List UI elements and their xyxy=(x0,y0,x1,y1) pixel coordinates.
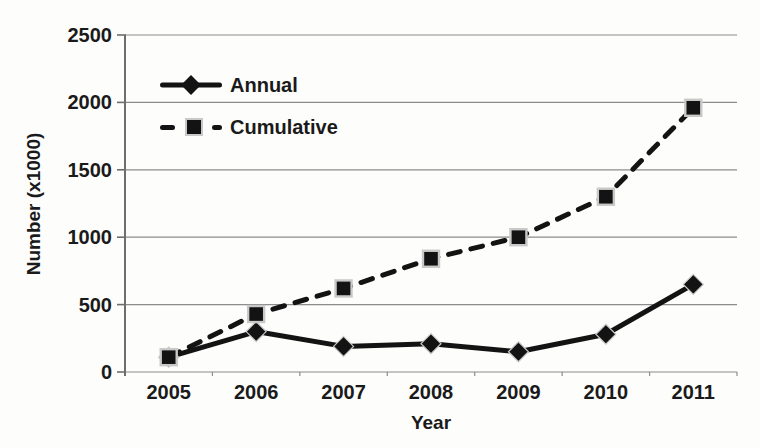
square-marker-icon xyxy=(185,118,203,136)
diamond-marker-icon xyxy=(181,75,201,95)
y-tick-label: 1000 xyxy=(68,226,113,248)
square-marker-cumulative xyxy=(423,251,439,267)
legend-item-cumulative: Cumulative xyxy=(160,106,338,148)
x-tick-label: 2010 xyxy=(584,381,629,403)
y-tick-label: 2500 xyxy=(68,24,113,46)
dashed-line-icon xyxy=(160,116,222,138)
diamond-marker-annual xyxy=(683,274,703,294)
x-tick-label: 2005 xyxy=(146,381,191,403)
chart-container: 0500100015002000250020052006200720082009… xyxy=(0,0,760,448)
x-axis-title: Year xyxy=(125,412,737,434)
x-tick-label: 2011 xyxy=(672,381,715,403)
legend-item-annual: Annual xyxy=(160,64,338,106)
diamond-marker-annual xyxy=(508,342,528,362)
legend: Annual Cumulative xyxy=(160,64,338,148)
square-marker-cumulative xyxy=(161,349,177,365)
x-tick-label: 2008 xyxy=(409,381,454,403)
square-marker-cumulative xyxy=(510,229,526,245)
y-tick-label: 2000 xyxy=(68,91,113,113)
annual-line-sample xyxy=(160,74,222,96)
x-tick-label: 2007 xyxy=(321,381,366,403)
x-tick-label: 2006 xyxy=(234,381,279,403)
diamond-marker-annual xyxy=(596,324,616,344)
y-tick-label: 1500 xyxy=(68,159,113,181)
diamond-marker-annual xyxy=(246,322,266,342)
y-tick-label: 0 xyxy=(101,361,112,383)
x-tick-label: 2009 xyxy=(496,381,541,403)
y-tick-label: 500 xyxy=(79,294,112,316)
plot-area: 0500100015002000250020052006200720082009… xyxy=(0,0,760,448)
square-marker-cumulative xyxy=(685,100,701,116)
square-marker-cumulative xyxy=(248,306,264,322)
diamond-marker-annual xyxy=(421,334,441,354)
square-marker-cumulative xyxy=(598,189,614,205)
diamond-marker-annual xyxy=(334,336,354,356)
y-axis-title: Number (x1000) xyxy=(23,133,45,276)
cumulative-line-sample xyxy=(160,116,222,138)
legend-label-cumulative: Cumulative xyxy=(230,116,338,139)
legend-label-annual: Annual xyxy=(230,74,298,97)
square-marker-cumulative xyxy=(336,280,352,296)
